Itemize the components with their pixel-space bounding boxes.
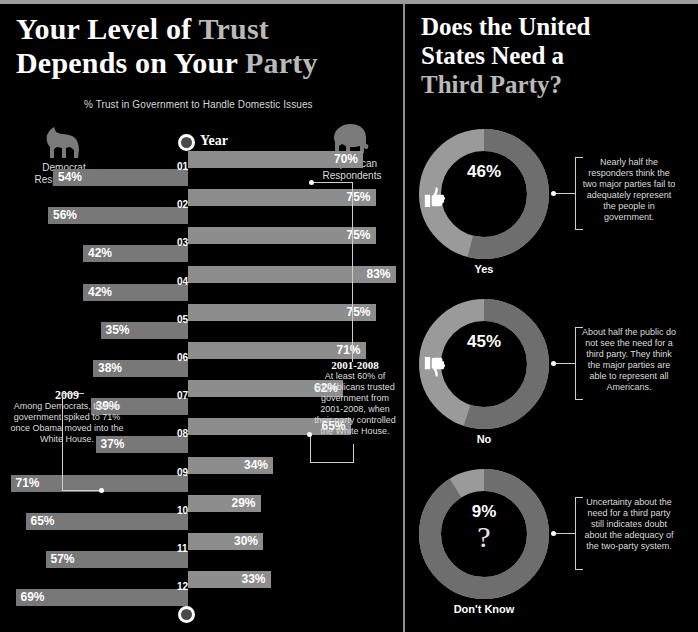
thumbs-down-icon (419, 354, 549, 380)
republican-bar-value: 75% (346, 189, 370, 206)
bar-year-label: 12 (177, 581, 188, 592)
republican-bar: 30% (188, 533, 263, 550)
bar-year-label: 10 (177, 505, 188, 516)
left-panel: Your Level of Trust Depends on Your Part… (0, 4, 403, 632)
democrat-bar: 35% (101, 322, 189, 339)
donut-label: Yes (419, 263, 549, 275)
democrat-bar: 38% (93, 360, 188, 377)
bar-year-label: 01 (177, 161, 188, 172)
callout-2001-2008-heading: 2001-2008 (312, 360, 398, 371)
donut-note: About half the public do not see the nee… (581, 327, 677, 393)
republican-bar-value: 83% (366, 266, 390, 283)
diverging-bar-chart: 70%54%0175%56%0275%42%0383%42%0475%35%05… (0, 4, 403, 632)
republican-bar-value: 33% (241, 571, 265, 588)
republican-bar-value: 71% (336, 342, 360, 359)
callout-2009: 2009 Among Democrats, trust in governmen… (8, 390, 126, 445)
republican-bar: 29% (188, 495, 261, 512)
bar-row: 30%57%11 (0, 533, 403, 571)
bar-row: 75%56%02 (0, 189, 403, 227)
democrat-bar-value: 56% (53, 207, 77, 224)
bar-year-label: 06 (177, 352, 188, 363)
republican-bar: 83% (188, 266, 396, 283)
callout-2009-leader-bottom (62, 490, 102, 491)
bar-year-label: 09 (177, 467, 188, 478)
donut-note: Nearly half the responders think the two… (581, 157, 677, 223)
bar-row: 29%65%10 (0, 495, 403, 533)
democrat-bar: 69% (16, 589, 189, 606)
donut-leader-bracket-top (575, 157, 583, 158)
republican-bar: 75% (188, 304, 376, 321)
democrat-bar-value: 71% (16, 475, 40, 492)
right-panel-title: Does the United States Need a Third Part… (421, 12, 671, 99)
democrat-bar-value: 69% (21, 589, 45, 606)
democrat-bar: 54% (53, 169, 188, 186)
democrat-bar-value: 54% (58, 169, 82, 186)
right-panel: Does the United States Need a Third Part… (405, 4, 698, 632)
donut-leader-bracket-bottom (575, 399, 583, 400)
democrat-bar: 57% (46, 551, 189, 568)
donut-anchor-dot (551, 191, 556, 196)
democrat-bar: 42% (83, 284, 188, 301)
bar-year-label: 02 (177, 199, 188, 210)
donut-leader-bracket-top (575, 327, 583, 328)
donut-chart: 46% (419, 129, 549, 259)
right-title-line1: Does the United (421, 13, 590, 40)
donut-note: Uncertainty about the need for a third p… (581, 497, 677, 552)
callout-2001-2008-anchor-dot-bottom (307, 432, 312, 437)
republican-bar-value: 30% (234, 533, 258, 550)
democrat-bar-value: 42% (88, 284, 112, 301)
callout-2001-2008-body: At least 60% of Republicans trusted gove… (312, 371, 398, 437)
callout-2001-2008-leader-bottom-vert (353, 444, 354, 463)
bar-year-label: 08 (177, 428, 188, 439)
democrat-bar: 56% (48, 207, 188, 224)
bar-row: 33%69%12 (0, 571, 403, 609)
republican-bar: 34% (188, 457, 273, 474)
republican-bar-value: 29% (231, 495, 255, 512)
callout-2009-heading: 2009 (8, 390, 126, 401)
bar-year-label: 05 (177, 314, 188, 325)
donut-leader-line (554, 533, 576, 534)
donut-leader-bracket (575, 327, 576, 399)
democrat-bar: 65% (26, 513, 189, 530)
donut-leader-bracket-bottom (575, 569, 583, 570)
bar-year-label: 03 (177, 237, 188, 248)
democrat-bar-value: 35% (106, 322, 130, 339)
democrat-bar-value: 42% (88, 245, 112, 262)
callout-2001-2008-leader-top (312, 182, 353, 183)
donut-chart: 45% (419, 299, 549, 429)
donut-label: No (419, 433, 549, 445)
republican-bar: 70% (188, 151, 363, 168)
republican-bar: 71% (188, 342, 366, 359)
donut-label: Don't Know (419, 603, 549, 615)
republican-bar-value: 34% (244, 457, 268, 474)
bar-row: 83%42%04 (0, 266, 403, 304)
democrat-bar-value: 38% (98, 360, 122, 377)
donut-chart: 9%? (419, 469, 549, 599)
donut-leader-bracket (575, 157, 576, 229)
republican-bar-value: 70% (334, 151, 358, 168)
right-title-line3: Third Party? (421, 71, 562, 98)
donut-leader-line (554, 193, 576, 194)
donut-percent: 45% (419, 332, 549, 352)
republican-bar: 75% (188, 227, 376, 244)
callout-2001-2008-anchor-dot-top (309, 180, 314, 185)
bar-year-label: 11 (177, 543, 188, 554)
callout-2001-2008-leader-bottom-left (310, 434, 311, 463)
donut-leader-line (554, 363, 576, 364)
callout-2009-leader-top (62, 393, 84, 394)
thumbs-up-icon (419, 184, 549, 210)
democrat-bar: 42% (83, 245, 188, 262)
callout-2009-leader-vert (62, 393, 63, 490)
democrat-bar-value: 65% (31, 513, 55, 530)
republican-bar-value: 75% (346, 304, 370, 321)
donut-percent: 46% (419, 162, 549, 182)
right-title-line2: States Need a (421, 42, 564, 69)
callout-2001-2008-leader-bottom (310, 462, 354, 463)
callout-2009-body: Among Democrats, trust in government spi… (8, 401, 126, 445)
donut-anchor-dot (551, 361, 556, 366)
donut-leader-bracket (575, 497, 576, 569)
bar-row: 75%35%05 (0, 304, 403, 342)
donut-percent: 9% (419, 502, 549, 522)
republican-bar: 33% (188, 571, 271, 588)
democrat-bar-value: 57% (51, 551, 75, 568)
